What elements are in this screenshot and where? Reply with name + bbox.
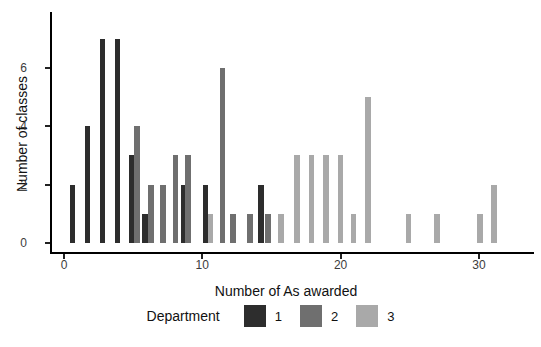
bar-x15-dept2 [265, 214, 271, 243]
bar-x21-dept3 [351, 214, 357, 243]
legend-swatch-1 [244, 305, 266, 327]
bar-x11-dept2 [220, 68, 226, 243]
bar-x14-dept1 [258, 185, 264, 243]
x-axis-tick-label-30: 30 [472, 259, 485, 271]
bar-x25-dept3 [406, 214, 412, 243]
y-axis-tick-4 [45, 125, 50, 127]
legend-swatch-3 [356, 305, 378, 327]
bar-x22-dept3 [365, 97, 371, 243]
bar-x8-dept2 [173, 155, 179, 243]
x-axis-tick-label-10: 10 [196, 259, 209, 271]
bar-x4-dept1 [115, 39, 121, 243]
bar-x9-dept2 [185, 155, 191, 243]
legend-item-2: 2 [300, 305, 338, 327]
legend-label-2: 2 [331, 309, 338, 324]
y-axis-title: Number of classes [14, 76, 30, 192]
x-axis-tick-label-20: 20 [334, 259, 347, 271]
y-axis-tick-label-0: 0 [9, 237, 27, 249]
x-axis-line [50, 252, 534, 254]
bar-x1-dept1 [70, 185, 76, 243]
bar-x7-dept2 [160, 185, 166, 243]
bar-x6-dept2 [148, 185, 154, 243]
x-axis-title: Number of As awarded [215, 283, 357, 299]
bar-x10-dept3 [208, 214, 214, 243]
bar-x13-dept2 [247, 214, 253, 243]
bar-x31-dept3 [491, 185, 497, 243]
bar-x5-dept2 [134, 126, 140, 243]
bar-x27-dept3 [434, 214, 440, 243]
bar-x18-dept3 [309, 155, 315, 243]
legend-label-3: 3 [387, 309, 394, 324]
bar-x16-dept3 [278, 214, 284, 243]
y-axis-tick-label-4: 4 [9, 120, 27, 132]
bar-x12-dept2 [230, 214, 236, 243]
legend-swatch-2 [300, 305, 322, 327]
legend-item-3: 3 [356, 305, 394, 327]
bar-x17-dept3 [294, 155, 300, 243]
bar-x2-dept1 [85, 126, 91, 243]
x-axis-tick-label-0: 0 [61, 259, 68, 271]
y-axis-tick-label-6: 6 [9, 62, 27, 74]
bar-x3-dept1 [100, 39, 106, 243]
bar-x30-dept3 [477, 214, 483, 243]
y-axis-line [50, 12, 52, 254]
bar-x19-dept3 [323, 155, 329, 243]
legend: Department 123 [0, 305, 541, 327]
y-axis-tick-6 [45, 67, 50, 69]
legend-label-1: 1 [275, 309, 282, 324]
y-axis-tick-label-2: 2 [9, 179, 27, 191]
y-axis-tick-2 [45, 184, 50, 186]
bar-x20-dept3 [338, 155, 344, 243]
y-axis-tick-0 [45, 242, 50, 244]
legend-item-1: 1 [244, 305, 282, 327]
legend-title: Department [147, 308, 220, 324]
histogram-figure: Number of As awarded Number of classes D… [0, 0, 541, 347]
